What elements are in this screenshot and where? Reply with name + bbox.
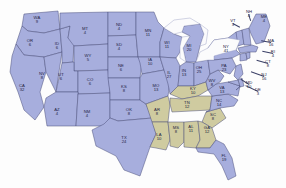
state-shape-AZ[interactable] — [44, 92, 78, 126]
state-shape-TX[interactable] — [92, 118, 156, 176]
state-shape-ND[interactable] — [108, 12, 136, 36]
state-shape-ME[interactable] — [249, 14, 270, 44]
state-shape-RI[interactable] — [246, 52, 250, 59]
state-shape-SD[interactable] — [108, 35, 138, 57]
state-shape-TN[interactable] — [170, 96, 212, 112]
state-shape-IN[interactable] — [178, 62, 194, 86]
state-shape-KS[interactable] — [108, 78, 140, 100]
state-shape-MA[interactable] — [238, 45, 258, 53]
state-shape-NE[interactable] — [108, 57, 142, 78]
us-states-svg — [0, 0, 286, 188]
state-shape-WY[interactable] — [74, 44, 108, 71]
electoral-map: WA9OR6CA32NV8ID6MT4WY5UT6CO6AZ4NM4ND4SD4… — [0, 0, 286, 188]
state-shape-PA[interactable] — [208, 58, 236, 74]
state-shape-NM[interactable] — [76, 93, 110, 126]
state-shape-MS[interactable] — [168, 122, 184, 148]
state-shape-AL[interactable] — [184, 121, 200, 148]
state-shape-CO[interactable] — [78, 70, 110, 94]
state-shape-WA[interactable] — [22, 11, 60, 33]
